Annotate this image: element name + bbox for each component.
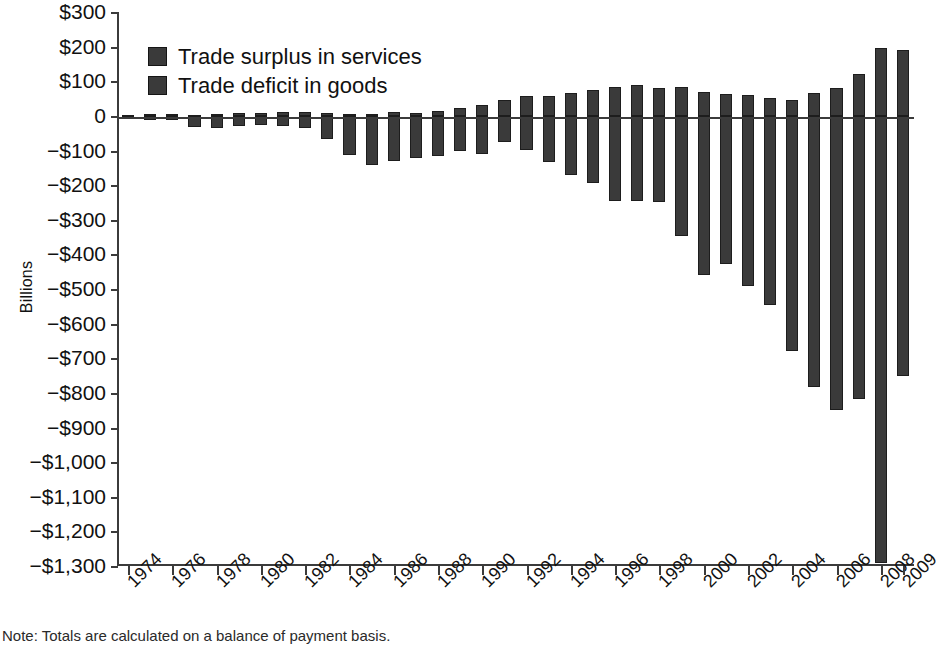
legend-label-deficit: Trade deficit in goods	[178, 75, 388, 97]
y-tick-label: 0	[6, 105, 106, 126]
bar-deficit-1999	[675, 116, 687, 236]
bar-deficit-1985	[366, 116, 378, 165]
bar-deficit-2005	[808, 116, 820, 387]
bar-surplus-1996	[609, 87, 621, 116]
bar-deficit-2008	[875, 116, 887, 563]
y-tick-label: −$200	[6, 174, 106, 195]
bar-deficit-2003	[764, 116, 776, 305]
bar-surplus-1991	[498, 100, 510, 116]
y-tick-label: $200	[6, 36, 106, 57]
y-tick-label: −$700	[6, 347, 106, 368]
y-tick-label: −$100	[6, 140, 106, 161]
bar-deficit-1989	[454, 116, 466, 151]
bar-surplus-2002	[742, 95, 754, 115]
bar-deficit-1997	[631, 116, 643, 201]
bar-deficit-1984	[343, 116, 355, 155]
bar-surplus-2006	[830, 88, 842, 116]
y-tick-mark	[111, 254, 118, 256]
bar-surplus-1997	[631, 85, 643, 115]
legend-item-deficit: Trade deficit in goods	[148, 71, 528, 100]
bar-surplus-1998	[653, 88, 665, 116]
bar-deficit-1995	[587, 116, 599, 184]
bar-deficit-2004	[786, 116, 798, 351]
y-tick-mark	[111, 47, 118, 49]
y-tick-mark	[111, 151, 118, 153]
bar-deficit-2007	[853, 116, 865, 400]
bar-deficit-1996	[609, 116, 621, 201]
bar-deficit-2001	[720, 116, 732, 264]
legend-swatch-icon-deficit	[148, 76, 167, 95]
bar-surplus-2000	[698, 92, 710, 116]
y-tick-mark	[111, 220, 118, 222]
legend-item-surplus: Trade surplus in services	[148, 42, 528, 71]
bar-deficit-1994	[565, 116, 577, 176]
legend-swatch-icon-surplus	[148, 47, 167, 66]
bar-deficit-1983	[321, 116, 333, 139]
bar-surplus-2009	[897, 50, 909, 116]
y-tick-mark	[111, 566, 118, 568]
bar-deficit-1990	[476, 116, 488, 154]
y-tick-mark	[111, 116, 118, 118]
bar-surplus-2008	[875, 48, 887, 116]
y-tick-label: −$1,200	[6, 520, 106, 541]
y-tick-label: −$800	[6, 382, 106, 403]
bar-deficit-1986	[388, 116, 400, 161]
y-tick-mark	[111, 81, 118, 83]
y-tick-label: −$1,100	[6, 486, 106, 507]
bar-deficit-1998	[653, 116, 665, 202]
y-tick-mark	[111, 324, 118, 326]
bar-surplus-1999	[675, 87, 687, 115]
y-tick-label: $300	[6, 1, 106, 22]
bar-surplus-2001	[720, 94, 732, 116]
bar-surplus-2007	[853, 74, 865, 116]
y-tick-mark	[111, 289, 118, 291]
bar-surplus-2003	[764, 98, 776, 116]
bar-deficit-2000	[698, 116, 710, 275]
bar-deficit-1992	[520, 116, 532, 150]
bar-surplus-1995	[587, 90, 599, 116]
bar-deficit-2002	[742, 116, 754, 286]
y-tick-mark	[111, 462, 118, 464]
bar-deficit-1991	[498, 116, 510, 142]
y-tick-label: $100	[6, 70, 106, 91]
y-tick-mark	[111, 428, 118, 430]
legend-label-surplus: Trade surplus in services	[178, 46, 422, 68]
y-tick-label: −$1,300	[6, 555, 106, 576]
chart-legend: Trade surplus in services Trade deficit …	[148, 42, 528, 100]
bar-deficit-1993	[543, 116, 555, 162]
y-tick-mark	[111, 185, 118, 187]
zero-baseline	[117, 117, 914, 119]
bar-deficit-1987	[410, 116, 422, 158]
bar-deficit-1988	[432, 116, 444, 156]
y-tick-mark	[111, 358, 118, 360]
bar-surplus-1993	[543, 96, 555, 116]
bar-deficit-2006	[830, 116, 842, 410]
bar-deficit-2009	[897, 116, 909, 376]
chart-note: Note: Totals are calculated on a balance…	[2, 628, 390, 644]
bar-surplus-1990	[476, 105, 488, 115]
bar-surplus-2004	[786, 100, 798, 116]
y-tick-mark	[111, 12, 118, 14]
y-tick-mark	[111, 393, 118, 395]
y-tick-label: −$900	[6, 417, 106, 438]
bar-surplus-2005	[808, 93, 820, 116]
y-tick-label: −$1,000	[6, 451, 106, 472]
y-axis-tick-labels: $300$200$1000−$100−$200−$300−$400−$500−$…	[0, 0, 106, 646]
y-axis-title: Billions	[18, 227, 36, 347]
y-tick-mark	[111, 497, 118, 499]
y-tick-mark	[111, 531, 118, 533]
bar-surplus-1994	[565, 93, 577, 116]
bar-surplus-1989	[454, 108, 466, 116]
